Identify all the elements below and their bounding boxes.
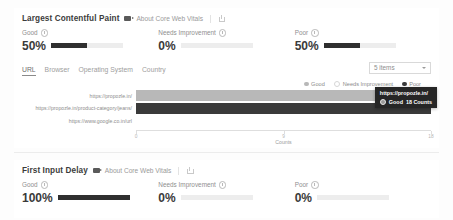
metric-value: 50% xyxy=(295,40,319,52)
tooltip-series-label: Good xyxy=(389,99,403,105)
section-divider xyxy=(14,152,439,153)
metrics-row-fid: Good 100% Needs Improvement 0% xyxy=(14,175,439,204)
about-core-web-vitals-link[interactable]: About Core Web Vitals xyxy=(105,167,171,174)
metric-value: 50% xyxy=(22,40,46,52)
tooltip-series-dot xyxy=(380,99,386,105)
metric-poor: Poor 50% xyxy=(295,29,431,52)
metric-progress-bar xyxy=(181,43,253,48)
metric-progress-fill xyxy=(324,43,360,48)
tooltip-series-value: 18 Counts xyxy=(406,99,432,105)
metric-progress-bar xyxy=(181,195,253,200)
metric-progress-fill xyxy=(51,43,87,48)
metrics-row-lcp: Good 50% Needs Improvement 0% xyxy=(14,23,439,52)
legend-dot-needs-improvement xyxy=(334,81,341,88)
metric-progress-bar xyxy=(324,43,396,48)
chart-row-label: https://propozle.in/ xyxy=(22,93,136,99)
legend-label: Good xyxy=(311,81,325,87)
breakdown-tabs-row: URL Browser Operating System Country 5 i… xyxy=(14,66,439,76)
metric-label: Good xyxy=(22,29,38,36)
divider xyxy=(178,167,179,175)
legend-dot-good xyxy=(304,82,309,87)
items-count-value: 5 items xyxy=(374,64,395,71)
card-header-fid: First Input Delay About Core Web Vitals xyxy=(14,160,439,175)
info-icon[interactable] xyxy=(219,181,227,189)
video-icon xyxy=(93,168,100,173)
metric-value: 0% xyxy=(295,192,312,204)
video-icon xyxy=(124,16,131,21)
tab-url[interactable]: URL xyxy=(22,66,36,76)
metric-good: Good 100% xyxy=(22,181,158,204)
metric-needs-improvement: Needs Improvement 0% xyxy=(158,181,294,204)
metric-needs-improvement: Needs Improvement 0% xyxy=(158,29,294,52)
info-icon[interactable] xyxy=(311,181,319,189)
info-icon[interactable] xyxy=(41,181,49,189)
chart-row[interactable]: https://propozle.in/product-category/jea… xyxy=(22,103,431,114)
legend-item-good[interactable]: Good xyxy=(304,81,325,88)
metric-label: Needs Improvement xyxy=(158,181,216,188)
legend-dot-poor xyxy=(402,82,407,87)
chart-row-bars xyxy=(136,115,431,126)
divider xyxy=(210,15,211,23)
metric-value: 100% xyxy=(22,192,53,204)
tooltip-title: https://propozle.in/ xyxy=(380,90,432,96)
metric-progress-bar xyxy=(317,195,389,200)
share-icon[interactable] xyxy=(186,167,194,175)
tab-country[interactable]: Country xyxy=(142,66,166,76)
info-icon[interactable] xyxy=(219,29,227,37)
page-title: Largest Contentful Paint xyxy=(22,14,119,23)
metric-progress-fill xyxy=(58,195,130,200)
info-icon[interactable] xyxy=(41,29,49,37)
metric-value: 0% xyxy=(158,192,175,204)
metric-progress-bar xyxy=(58,195,130,200)
metric-label: Poor xyxy=(295,181,309,188)
tab-operating-system[interactable]: Operating System xyxy=(79,66,133,76)
tab-browser[interactable]: Browser xyxy=(45,66,70,76)
chart-row[interactable]: https://www.google.co.in/url xyxy=(22,115,431,126)
chart-tooltip: https://propozle.in/ Good 18 Counts xyxy=(375,87,437,108)
metric-good: Good 50% xyxy=(22,29,158,52)
info-icon[interactable] xyxy=(311,29,319,37)
about-core-web-vitals-link[interactable]: About Core Web Vitals xyxy=(136,15,202,22)
metric-value: 0% xyxy=(158,40,175,52)
card-header-lcp: Largest Contentful Paint About Core Web … xyxy=(14,8,439,23)
chart-row-label: https://www.google.co.in/url xyxy=(22,118,136,124)
legend-label: Poor xyxy=(409,81,421,87)
legend-label: Needs Improvement xyxy=(343,81,393,87)
chart-row[interactable]: https://propozle.in/ xyxy=(22,90,431,101)
chart-plot-area: https://propozle.in/ https://propozle.in… xyxy=(22,90,431,130)
card-first-input-delay: First Input Delay About Core Web Vitals … xyxy=(14,160,439,218)
metric-label: Poor xyxy=(295,29,309,36)
share-icon[interactable] xyxy=(218,15,226,23)
chart-x-axis-label: Counts xyxy=(136,139,431,145)
metric-progress-bar xyxy=(51,43,123,48)
metric-poor: Poor 0% xyxy=(295,181,431,204)
card-largest-contentful-paint: Largest Contentful Paint About Core Web … xyxy=(14,8,439,148)
metric-label: Good xyxy=(22,181,38,188)
metric-label: Needs Improvement xyxy=(158,29,216,36)
chevron-down-icon xyxy=(422,67,426,69)
core-web-vitals-page: Largest Contentful Paint About Core Web … xyxy=(0,0,453,220)
page-title: First Input Delay xyxy=(22,166,88,175)
breakdown-tabs: URL Browser Operating System Country xyxy=(22,66,166,76)
chart-row-label: https://propozle.in/product-category/jea… xyxy=(22,105,136,111)
items-count-select[interactable]: 5 items xyxy=(369,62,431,74)
